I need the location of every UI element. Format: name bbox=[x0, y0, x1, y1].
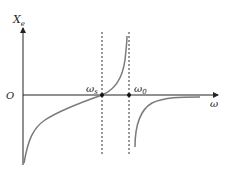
omega-0-label: ω0 bbox=[134, 83, 147, 96]
reactance-curve-low bbox=[24, 36, 127, 163]
omega-s-point bbox=[100, 93, 104, 97]
omega-0-point bbox=[127, 93, 131, 97]
omega-s-label: ωs bbox=[86, 83, 98, 96]
reactance-curve-high bbox=[135, 97, 200, 147]
x-axis-label: ω bbox=[210, 98, 218, 109]
origin-label: O bbox=[6, 90, 14, 101]
y-axis-label: Xe bbox=[12, 13, 25, 28]
reactance-diagram: Xe O ω ωs ω0 bbox=[0, 0, 231, 170]
